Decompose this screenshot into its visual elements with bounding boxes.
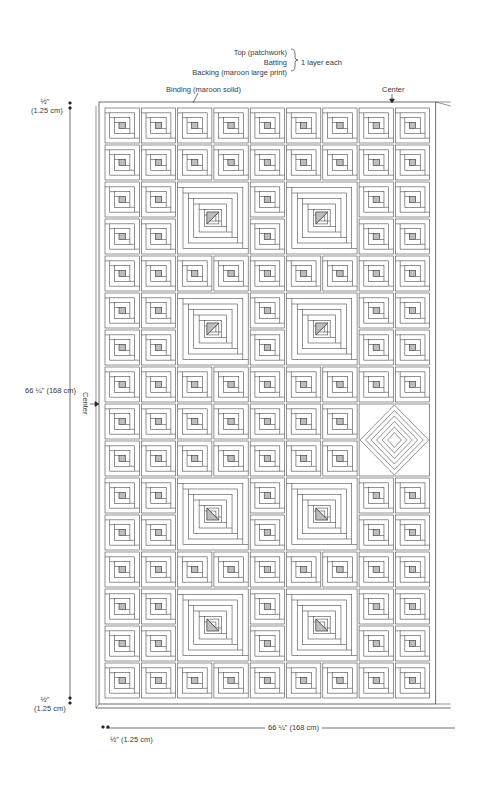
log-cabin-block: [178, 404, 212, 439]
log-cabin-block: [250, 478, 284, 513]
log-cabin-block: [359, 589, 393, 624]
log-cabin-block: [141, 626, 175, 661]
log-cabin-block: [395, 330, 429, 365]
log-cabin-block: [214, 367, 248, 402]
log-cabin-block: [287, 108, 321, 143]
log-cabin-block: [178, 589, 249, 661]
log-cabin-block: [359, 478, 393, 513]
bottom-margin-fraction: ½": [30, 695, 60, 704]
log-cabin-block: [141, 219, 175, 254]
log-cabin-block: [105, 478, 139, 513]
log-cabin-block: [359, 552, 393, 587]
log-cabin-block: [214, 552, 248, 587]
log-cabin-block: [287, 552, 321, 587]
log-cabin-block: [395, 478, 429, 513]
log-cabin-block: [395, 626, 429, 661]
width-dimension: 66 ¼" (168 cm): [265, 723, 322, 732]
log-cabin-block: [178, 367, 212, 402]
log-cabin-block: [323, 108, 357, 143]
log-cabin-block: [395, 182, 429, 217]
log-cabin-block: [323, 256, 357, 291]
log-cabin-block: [250, 182, 284, 217]
log-cabin-block: [250, 515, 284, 550]
log-cabin-block: [323, 552, 357, 587]
log-cabin-block: [105, 441, 139, 476]
log-cabin-block: [178, 145, 212, 180]
log-cabin-block: [323, 663, 357, 698]
log-cabin-block: [178, 182, 249, 254]
log-cabin-block: [105, 219, 139, 254]
log-cabin-block: [287, 293, 358, 365]
log-cabin-block: [141, 330, 175, 365]
log-cabin-block: [323, 367, 357, 402]
log-cabin-block: [250, 552, 284, 587]
log-cabin-block: [359, 108, 393, 143]
log-cabin-block: [250, 330, 284, 365]
log-cabin-block: [141, 663, 175, 698]
log-cabin-block: [105, 589, 139, 624]
log-cabin-block: [359, 330, 393, 365]
log-cabin-block: [323, 441, 357, 476]
log-cabin-block: [359, 367, 393, 402]
log-cabin-block: [105, 404, 139, 439]
top-margin-metric: (1.25 cm): [31, 106, 63, 115]
log-cabin-block: [105, 663, 139, 698]
log-cabin-block: [287, 404, 321, 439]
log-cabin-block: [359, 293, 393, 328]
log-cabin-block: [105, 626, 139, 661]
log-cabin-block: [359, 256, 393, 291]
log-cabin-block: [214, 404, 248, 439]
log-cabin-block: [214, 441, 248, 476]
log-cabin-block: [395, 219, 429, 254]
left-margin-dimension: ½" (1.25 cm): [110, 735, 153, 744]
log-cabin-block: [250, 404, 284, 439]
log-cabin-block: [141, 182, 175, 217]
log-cabin-block: [178, 441, 212, 476]
log-cabin-block: [359, 663, 393, 698]
log-cabin-block: [105, 515, 139, 550]
log-cabin-block: [395, 108, 429, 143]
log-cabin-block: [214, 145, 248, 180]
log-cabin-block: [141, 108, 175, 143]
log-cabin-block: [178, 256, 212, 291]
log-cabin-block: [105, 367, 139, 402]
log-cabin-block: [250, 367, 284, 402]
log-cabin-block: [250, 256, 284, 291]
layer-label-batting: Batting: [0, 58, 287, 67]
log-cabin-block: [178, 478, 249, 550]
log-cabin-block: [105, 145, 139, 180]
log-cabin-block: [141, 515, 175, 550]
log-cabin-block: [105, 293, 139, 328]
log-cabin-block: [250, 219, 284, 254]
center-left-label: Center: [81, 392, 90, 415]
log-cabin-block: [141, 404, 175, 439]
log-cabin-block: [178, 293, 249, 365]
log-cabin-block: [105, 182, 139, 217]
quilt-top: [96, 102, 451, 708]
diamond-block: [359, 404, 430, 476]
log-cabin-block: [287, 367, 321, 402]
layers-note: 1 layer each: [301, 58, 342, 67]
log-cabin-block: [323, 404, 357, 439]
log-cabin-block: [178, 552, 212, 587]
log-cabin-block: [141, 293, 175, 328]
log-cabin-block: [287, 589, 358, 661]
layer-label-top-row: Top (patchwork): [0, 48, 287, 57]
binding-label: Binding (maroon solid): [166, 85, 241, 94]
log-cabin-block: [141, 589, 175, 624]
log-cabin-block: [395, 552, 429, 587]
dimension-lines: [69, 49, 455, 728]
log-cabin-block: [250, 589, 284, 624]
log-cabin-block: [141, 367, 175, 402]
log-cabin-block: [105, 552, 139, 587]
log-cabin-block: [250, 293, 284, 328]
log-cabin-block: [105, 330, 139, 365]
log-cabin-block: [250, 145, 284, 180]
log-cabin-block: [178, 663, 212, 698]
bottom-margin-metric: (1.25 cm): [34, 704, 66, 713]
log-cabin-block: [359, 182, 393, 217]
log-cabin-block: [214, 256, 248, 291]
log-cabin-block: [395, 145, 429, 180]
log-cabin-block: [395, 663, 429, 698]
log-cabin-block: [287, 478, 358, 550]
